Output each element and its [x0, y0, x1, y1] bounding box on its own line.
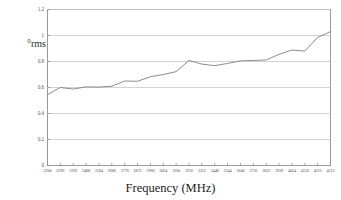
- x-axis-label: Frequency (MHz): [0, 181, 341, 196]
- y-tick-label: 1: [2, 33, 44, 38]
- y-tick-label: 0.8: [2, 59, 44, 64]
- chart-figure: °rms 1.210.80.60.40.20 22002296239224882…: [0, 0, 341, 200]
- x-axis-tick-labels: 2200229623922488258426802776287229683064…: [47, 168, 331, 178]
- y-tick-label: 0.6: [2, 85, 44, 90]
- y-tick-label: 1.2: [2, 7, 44, 12]
- y-tick-label: 0.2: [2, 137, 44, 142]
- plot-svg: [47, 9, 331, 166]
- x-tick-label: 4312: [319, 168, 341, 173]
- y-tick-label: 0.4: [2, 111, 44, 116]
- plot-area: [47, 9, 331, 166]
- y-axis-tick-labels: 1.210.80.60.40.20: [0, 0, 47, 175]
